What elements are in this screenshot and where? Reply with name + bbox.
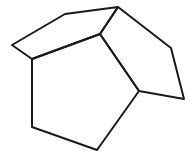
diagram-canvas (0, 0, 196, 161)
face-bottom-pentagon (32, 34, 139, 150)
face-top-left-pentagon (12, 7, 118, 59)
